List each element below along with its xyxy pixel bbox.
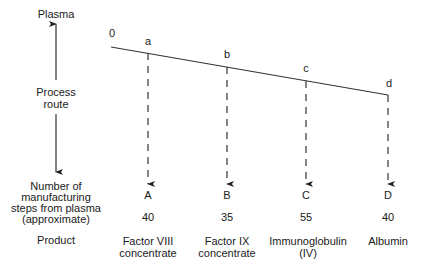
product-name-b-line1: Factor IX bbox=[205, 235, 250, 247]
route-label: route bbox=[43, 98, 68, 110]
steps-value-a: 40 bbox=[142, 211, 154, 223]
steps-value-d: 40 bbox=[382, 211, 394, 223]
process-route-line bbox=[111, 47, 388, 95]
product-label: Product bbox=[37, 234, 75, 246]
product-name-c-line1: Immunoglobulin bbox=[269, 235, 347, 247]
process-label: Process bbox=[36, 86, 76, 98]
branch-point-c: c bbox=[303, 62, 309, 74]
product-name-a-line1: Factor VIII bbox=[123, 235, 174, 247]
steps-value-b: 35 bbox=[221, 211, 233, 223]
steps-label-line4: (approximate) bbox=[22, 213, 90, 225]
process-route-diagram bbox=[0, 0, 422, 268]
end-label-c: C bbox=[302, 189, 310, 201]
end-label-b: B bbox=[223, 189, 230, 201]
end-label-d: D bbox=[384, 189, 392, 201]
steps-value-c: 55 bbox=[300, 211, 312, 223]
end-label-a: A bbox=[144, 189, 151, 201]
product-name-a-line2: concentrate bbox=[119, 247, 176, 259]
branch-point-b: b bbox=[224, 48, 230, 60]
product-name-c-line2: (IV) bbox=[299, 247, 317, 259]
product-name-d-line1: Albumin bbox=[368, 235, 408, 247]
plasma-label: Plasma bbox=[38, 8, 75, 20]
branch-point-d: d bbox=[386, 77, 392, 89]
product-name-b-line2: concentrate bbox=[198, 247, 255, 259]
origin-label: 0 bbox=[109, 27, 115, 39]
branch-point-a: a bbox=[145, 35, 151, 47]
